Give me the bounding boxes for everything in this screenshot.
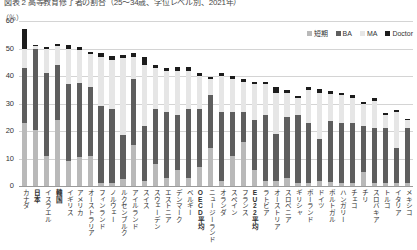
bar-column[interactable]	[52, 21, 63, 186]
stacked-bar	[98, 53, 103, 186]
bar-segment-ba	[295, 115, 300, 184]
bar-column[interactable]	[85, 21, 96, 186]
bar-segment-ma	[317, 93, 322, 140]
bar-column[interactable]	[314, 21, 325, 186]
bar-segment-ba	[88, 87, 93, 156]
x-label-cell: ノルウェー	[107, 189, 118, 250]
stacked-bar	[317, 89, 322, 186]
x-axis-label: トルコ	[382, 189, 389, 209]
bar-segment-doc	[142, 57, 147, 65]
bar-column[interactable]	[391, 21, 402, 186]
bar-column[interactable]	[249, 21, 260, 186]
x-axis-label: チリ	[360, 189, 367, 202]
stacked-bar	[361, 102, 366, 186]
bar-segment-ba	[197, 109, 202, 167]
bar-column[interactable]	[282, 21, 293, 186]
bar-column[interactable]	[161, 21, 172, 186]
x-label-cell: トルコ	[380, 189, 391, 250]
x-label-cell: EU22平均	[249, 189, 260, 250]
stacked-bar	[405, 119, 410, 186]
chart-container: 短期BAMADoctor 0102030405060 カナダ日本イスラエル韓国イ…	[0, 18, 417, 250]
bar-column[interactable]	[150, 21, 161, 186]
stacked-bar	[109, 56, 114, 186]
x-axis-label: オーストリア	[273, 189, 280, 229]
stacked-bar	[77, 47, 82, 186]
bar-column[interactable]	[227, 21, 238, 186]
x-axis-label: ポーランド	[306, 189, 313, 223]
bar-column[interactable]	[380, 21, 391, 186]
bar-column[interactable]	[238, 21, 249, 186]
bar-column[interactable]	[107, 21, 118, 186]
bar-segment-ma	[372, 101, 377, 129]
x-axis-label: フランス	[240, 189, 247, 216]
bar-column[interactable]	[139, 21, 150, 186]
x-label-cell: スロバキア	[369, 189, 380, 250]
x-axis-label: アメリカ	[76, 189, 83, 216]
stacked-bar	[263, 82, 268, 186]
bar-segment-ma	[328, 94, 333, 122]
bar-column[interactable]	[292, 21, 303, 186]
bar-column[interactable]	[369, 21, 380, 186]
bar-segment-ba	[383, 128, 388, 183]
x-axis-label: チェコ	[349, 189, 356, 209]
bar-column[interactable]	[96, 21, 107, 186]
bar-segment-short	[186, 178, 191, 186]
bar-segment-ba	[394, 148, 399, 184]
x-label-cell: スロベニア	[282, 189, 293, 250]
x-axis-label: イタリア	[393, 189, 400, 216]
bar-column[interactable]	[41, 21, 52, 186]
bar-column[interactable]	[194, 21, 205, 186]
stacked-bar	[328, 91, 333, 186]
x-label-cell: イタリア	[391, 189, 402, 250]
bar-column[interactable]	[63, 21, 74, 186]
x-label-cell: ルクセンブルク	[117, 189, 128, 250]
bar-segment-short	[77, 157, 82, 186]
bar-column[interactable]	[117, 21, 128, 186]
bar-column[interactable]	[347, 21, 358, 186]
x-axis-label: スロベニア	[284, 189, 291, 223]
bar-segment-ma	[131, 57, 136, 79]
x-axis-label: 日本	[32, 189, 39, 202]
bar-segment-ba	[66, 84, 71, 161]
bar-segment-ma	[252, 84, 257, 120]
bar-segment-ba	[284, 117, 289, 178]
bar-column[interactable]	[325, 21, 336, 186]
x-axis-label: ラトビア	[262, 189, 269, 216]
bar-column[interactable]	[216, 21, 227, 186]
bar-column[interactable]	[271, 21, 282, 186]
figure-title: 図表 2 高等教育修了者の割合（25～34歳、学位レベル別、2021年）	[4, 0, 241, 8]
x-axis-label: ドイツ	[316, 189, 323, 209]
bar-segment-ma	[230, 79, 235, 112]
bar-column[interactable]	[205, 21, 216, 186]
x-axis-label: スウェーデン	[152, 189, 159, 229]
stacked-bar	[186, 67, 191, 186]
bar-segment-ba	[263, 115, 268, 181]
bar-segment-ba	[372, 128, 377, 183]
bar-column[interactable]	[358, 21, 369, 186]
bar-column[interactable]	[30, 21, 41, 186]
bar-segment-ba	[33, 49, 38, 130]
bar-column[interactable]	[336, 21, 347, 186]
stacked-bar	[339, 93, 344, 186]
x-label-cell: チェコ	[347, 189, 358, 250]
bar-column[interactable]	[19, 21, 30, 186]
bar-segment-ma	[295, 98, 300, 115]
bar-column[interactable]	[172, 21, 183, 186]
bar-column[interactable]	[303, 21, 314, 186]
bar-column[interactable]	[128, 21, 139, 186]
bar-column[interactable]	[402, 21, 413, 186]
bar-column[interactable]	[74, 21, 85, 186]
x-axis-label: スロバキア	[371, 189, 378, 223]
bar-segment-ma	[55, 46, 60, 65]
stacked-bar	[197, 73, 202, 186]
stacked-bar	[66, 45, 71, 186]
bar-segment-ba	[350, 123, 355, 184]
bar-column[interactable]	[260, 21, 271, 186]
bar-segment-short	[153, 164, 158, 186]
x-label-cell: エストニア	[161, 189, 172, 250]
bar-column[interactable]	[183, 21, 194, 186]
bar-segment-short	[372, 183, 377, 186]
stacked-bar	[295, 96, 300, 186]
bar-series-group	[19, 21, 413, 186]
bar-segment-ba	[405, 128, 410, 183]
